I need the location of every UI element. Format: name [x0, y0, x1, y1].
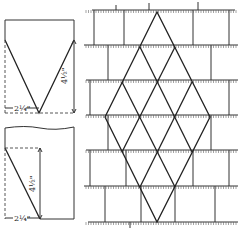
- template-top-outline: [5, 20, 74, 40]
- course-hatching: [86, 10, 236, 225]
- template-bottom: 2¼" 4½": [5, 127, 74, 224]
- template-bottom-height-label: 4½": [28, 175, 37, 192]
- template-top-width-label: 2¼": [14, 104, 31, 113]
- template-bottom-width-label: 2¼": [14, 214, 31, 223]
- drawing-canvas: 2¼" 4½" 2¼" 4½": [0, 0, 238, 233]
- template-top: 2¼" 4½": [5, 20, 76, 113]
- template-top-height-label: 4½": [60, 67, 69, 84]
